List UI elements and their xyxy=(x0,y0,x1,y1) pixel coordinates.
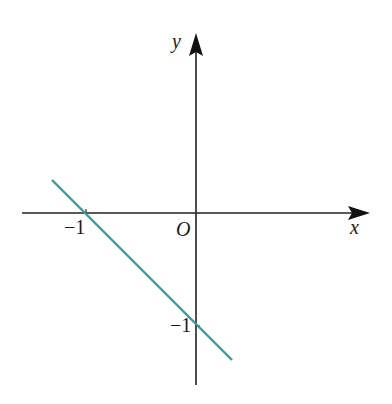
data-line xyxy=(52,180,232,360)
x-tick-label: −1 xyxy=(64,216,85,239)
y-axis-label: y xyxy=(172,30,181,53)
y-tick-label: −1 xyxy=(170,314,191,337)
origin-label: O xyxy=(176,218,190,241)
plot-area xyxy=(0,0,392,404)
chart: y x O −1 −1 xyxy=(0,0,392,404)
x-axis-label: x xyxy=(350,216,359,239)
